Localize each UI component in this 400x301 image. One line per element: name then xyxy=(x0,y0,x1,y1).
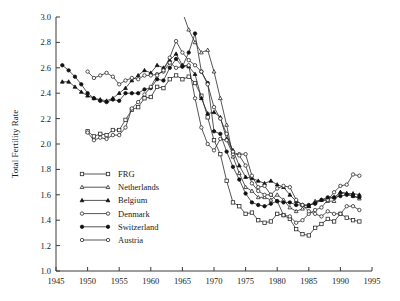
data-point xyxy=(237,164,241,167)
data-point xyxy=(358,196,361,199)
data-point xyxy=(106,238,109,241)
data-point xyxy=(193,81,196,84)
plot-frame xyxy=(56,17,372,271)
data-point xyxy=(225,132,228,135)
data-point xyxy=(358,174,361,177)
data-point xyxy=(118,128,121,131)
data-point xyxy=(301,219,304,222)
data-point xyxy=(149,74,152,77)
data-point xyxy=(231,150,234,153)
series-line-netherlands xyxy=(88,0,360,211)
data-point xyxy=(136,5,140,8)
fertility-rate-line-chart: 1.01.21.41.61.82.02.22.42.62.83.01945195… xyxy=(0,0,400,301)
x-tick-label: 1970 xyxy=(206,276,223,286)
data-point xyxy=(162,86,165,89)
data-point xyxy=(269,179,273,182)
data-point xyxy=(106,212,109,215)
data-point xyxy=(130,107,133,110)
data-point xyxy=(212,70,216,73)
data-point xyxy=(187,28,191,31)
data-point xyxy=(320,215,323,218)
data-point xyxy=(174,52,178,55)
data-point xyxy=(92,138,95,141)
data-point xyxy=(136,92,139,95)
data-point xyxy=(320,198,323,201)
data-point xyxy=(313,226,316,229)
data-point xyxy=(238,178,241,181)
x-tick-label: 1965 xyxy=(174,276,191,286)
data-point xyxy=(124,79,127,82)
x-tick-label: 1980 xyxy=(269,276,286,286)
data-point xyxy=(181,78,184,81)
data-point xyxy=(332,196,335,199)
y-tick-label: 2.4 xyxy=(40,88,51,98)
data-point xyxy=(256,179,260,182)
data-point xyxy=(358,220,361,223)
data-point xyxy=(269,202,272,205)
data-point xyxy=(143,1,147,4)
data-point xyxy=(111,11,115,14)
data-point xyxy=(124,126,127,129)
data-point xyxy=(237,171,241,174)
data-point xyxy=(320,222,323,225)
data-point xyxy=(143,88,146,91)
data-point xyxy=(143,74,146,77)
data-point xyxy=(206,116,209,119)
data-point xyxy=(345,205,348,208)
data-point xyxy=(212,130,215,133)
legend-label: Belgium xyxy=(118,195,148,205)
data-point xyxy=(149,85,152,88)
data-point xyxy=(155,74,158,77)
data-point xyxy=(162,69,165,72)
data-point xyxy=(339,190,343,193)
data-point xyxy=(301,232,304,235)
data-point xyxy=(92,97,95,100)
data-point xyxy=(212,105,215,108)
data-point xyxy=(187,58,190,61)
data-point xyxy=(212,138,215,141)
data-point xyxy=(106,198,110,201)
data-point xyxy=(345,193,348,196)
data-point xyxy=(351,194,354,197)
data-point xyxy=(345,216,348,219)
data-point xyxy=(320,206,323,209)
data-point xyxy=(73,75,76,78)
data-point xyxy=(307,234,310,237)
data-point xyxy=(111,98,114,101)
data-point xyxy=(136,78,139,81)
data-point xyxy=(149,0,153,3)
data-point xyxy=(181,65,184,68)
data-point xyxy=(118,99,121,102)
data-point xyxy=(99,136,102,139)
data-point xyxy=(162,79,165,82)
data-point xyxy=(111,75,114,78)
data-point xyxy=(187,64,190,67)
data-point xyxy=(212,110,216,113)
data-point xyxy=(136,105,139,108)
data-point xyxy=(130,6,134,9)
data-point xyxy=(174,57,177,60)
data-point xyxy=(168,61,171,64)
data-point xyxy=(269,193,272,196)
data-point xyxy=(193,64,196,67)
data-point xyxy=(250,189,254,192)
data-point xyxy=(276,212,279,215)
data-point xyxy=(294,198,297,201)
data-point xyxy=(118,83,121,86)
data-point xyxy=(244,175,248,178)
legend-label: Austria xyxy=(118,235,143,245)
x-tick-label: 1990 xyxy=(332,276,349,286)
data-point xyxy=(225,123,229,126)
data-point xyxy=(105,133,108,136)
data-point xyxy=(174,74,177,77)
data-point xyxy=(168,56,171,59)
data-point xyxy=(294,221,297,224)
data-point xyxy=(244,152,247,155)
data-point xyxy=(117,11,121,14)
data-point xyxy=(130,92,133,95)
x-tick-label: 1960 xyxy=(142,276,159,286)
data-point xyxy=(219,117,222,120)
y-tick-label: 1.4 xyxy=(40,215,51,225)
data-point xyxy=(326,210,329,213)
data-point xyxy=(60,80,64,83)
